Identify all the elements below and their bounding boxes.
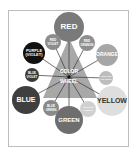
circle-green: GREEN (55, 106, 83, 134)
circle-orange: ORANGE (96, 44, 119, 66)
color-wheel-diagram: REDREDVIOLETREDORANGEPURPLE(VIOLET)ORANG… (0, 0, 137, 156)
orange-label1: ORANGE (96, 51, 119, 57)
circle-red-orange: REDORANGE (79, 35, 95, 51)
blue-label1: BLUE (16, 96, 35, 103)
red-label1: RED (61, 22, 78, 31)
green-label1: GREEN (58, 117, 79, 123)
blue-violet-label2: VIOLET (27, 75, 38, 79)
yellow-label1: YELLOW (97, 97, 127, 104)
circle-blue-violet: BLUEVIOLET (25, 68, 39, 82)
circle-red-violet: REDVIOLET (45, 34, 61, 50)
circle-blue: BLUE (12, 86, 40, 114)
center-label-line2: WHEEL (60, 78, 78, 84)
center-label-line1: COLOR (60, 68, 78, 74)
circle-yellow-green: YELLOWGREEN (80, 101, 96, 117)
red-violet-label2: VIOLET (48, 42, 59, 46)
red-orange-label2: ORANGE (80, 43, 93, 47)
circle-yellow-orange: YELLOWORANGE (99, 71, 113, 85)
blue-green-label2: GREEN (46, 108, 57, 112)
purple-label2: (VIOLET) (25, 52, 43, 57)
circle-yellow: YELLOW (97, 86, 127, 116)
yellow-orange-label2: ORANGE (101, 78, 112, 81)
yellow-green-label2: GREEN (84, 109, 93, 112)
circle-purple: PURPLE(VIOLET) (23, 42, 45, 64)
